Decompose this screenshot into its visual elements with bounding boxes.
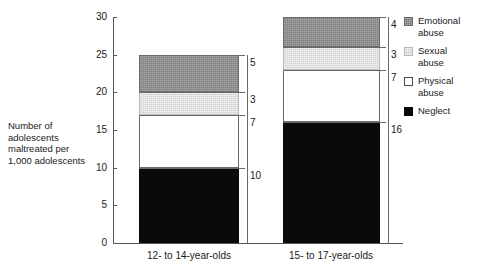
leader-line-sexual [139, 92, 245, 93]
data-label-physical: 7 [391, 72, 397, 83]
data-label-neglect: 16 [391, 124, 402, 135]
legend-label-physical: Physical abuse [418, 75, 479, 98]
y-tick-label: 0 [81, 237, 107, 248]
label-rule-2 [388, 17, 389, 243]
bar-segment-physical[interactable] [139, 115, 239, 168]
legend-label-emotional: Emotional abuse [418, 15, 479, 38]
bar-segment-sexual[interactable] [283, 47, 380, 70]
bar-segment-neglect[interactable] [139, 168, 239, 243]
leader-line-neglect [283, 122, 386, 123]
y-tick-0: 0 [113, 243, 114, 244]
leader-line-emotional [283, 17, 386, 18]
data-label-sexual: 3 [391, 49, 397, 60]
stacked-bar-chart: Number of adolescents maltreated per 1,0… [0, 0, 479, 275]
data-label-sexual: 3 [250, 94, 256, 105]
leader-line-neglect [139, 168, 245, 169]
leader-line-physical [139, 115, 245, 116]
bar-1[interactable] [139, 17, 239, 243]
y-tick-label: 15 [81, 124, 107, 135]
data-label-neglect: 10 [250, 170, 261, 181]
y-tick-mark [113, 243, 117, 244]
plot-area: 1073516734 [113, 17, 395, 243]
y-tick-label: 5 [81, 199, 107, 210]
legend-label-sexual: Sexual abuse [418, 45, 479, 68]
data-label-physical: 7 [250, 117, 256, 128]
x-axis-label-1: 12- to 14-year-olds [119, 250, 259, 261]
x-axis-line [113, 243, 403, 244]
bar-segment-emotional[interactable] [283, 17, 380, 47]
data-label-emotional: 5 [250, 57, 256, 68]
y-tick-label: 20 [81, 86, 107, 97]
leader-line-physical [283, 70, 386, 71]
legend-swatch-emotional-icon [404, 17, 413, 26]
label-rule-1 [247, 55, 248, 243]
bar-segment-sexual[interactable] [139, 92, 239, 115]
data-label-emotional: 4 [391, 19, 397, 30]
bar-segment-physical[interactable] [283, 70, 380, 123]
bar-segment-neglect[interactable] [283, 122, 380, 243]
legend-label-neglect: Neglect [418, 105, 479, 117]
legend-swatch-sexual-icon [404, 47, 413, 56]
y-tick-label: 10 [81, 162, 107, 173]
y-tick-label: 30 [81, 11, 107, 22]
y-tick-label: 25 [81, 49, 107, 60]
leader-line-sexual [283, 47, 386, 48]
legend-swatch-neglect-icon [404, 107, 413, 116]
x-axis-label-2: 15- to 17-year-olds [261, 250, 401, 261]
bar-2[interactable] [283, 17, 380, 243]
legend-swatch-physical-icon [404, 77, 413, 86]
leader-line-emotional [139, 55, 245, 56]
bar-segment-emotional[interactable] [139, 55, 239, 93]
